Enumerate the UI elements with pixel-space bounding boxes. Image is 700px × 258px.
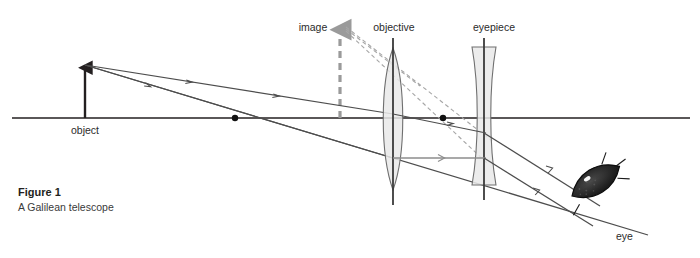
figure-caption-subtitle: A Galilean telescope [18,201,114,213]
eyepiece-label: eyepiece [473,21,515,33]
objective-label: objective [373,21,415,33]
objective-lens [383,38,403,205]
construction-line-lower [346,31,487,163]
ray-through-center [85,65,648,235]
eyepiece-lens [472,38,496,200]
construction-lines [346,27,492,163]
galilean-telescope-diagram: object image objective eyepiece eye Figu… [0,0,700,258]
construction-line-upper [346,27,492,141]
eye-label: eye [616,230,633,242]
focal-point-right [440,115,446,121]
focal-point-left [232,115,238,121]
arrowhead-internal-upper [447,122,453,126]
image-label: image [299,21,328,33]
object-label: object [71,124,99,136]
figure-root: object image objective eyepiece eye Figu… [0,0,700,258]
ray-objective-eyepiece-upper [393,114,486,133]
eye-shape [565,156,626,207]
incident-rays [85,65,648,235]
internal-rays [330,114,486,161]
figure-caption-title: Figure 1 [18,186,61,198]
arrowhead-ray-upper-1 [185,80,192,84]
construction-line-inner [346,29,420,86]
arrowhead-ray-upper-2 [272,94,279,98]
eye-glyph [554,145,636,215]
